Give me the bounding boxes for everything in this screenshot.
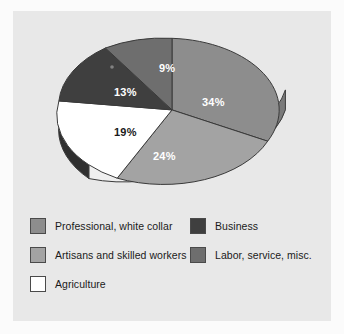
legend-column-left: Professional, white collar Artisans and … <box>30 213 205 300</box>
legend-swatch-agriculture <box>30 276 46 292</box>
legend-column-right: Business Labor, service, misc. <box>190 213 330 271</box>
slice-label-artisans: 24% <box>153 151 176 162</box>
highlight-speck <box>110 65 114 69</box>
slice-label-business: 13% <box>114 87 137 98</box>
legend-label-agriculture: Agriculture <box>55 278 106 290</box>
legend-item-business: Business <box>190 213 330 239</box>
slice-label-agriculture: 19% <box>114 127 137 138</box>
legend-item-professional: Professional, white collar <box>30 213 205 239</box>
pie-chart-svg <box>13 11 331 211</box>
figure-canvas: 34% 24% 19% 13% 9% Professional, white c… <box>0 0 344 334</box>
legend-swatch-artisans <box>30 247 46 263</box>
legend-swatch-professional <box>30 218 46 234</box>
legend-label-labor: Labor, service, misc. <box>215 249 312 261</box>
chart-panel: 34% 24% 19% 13% 9% Professional, white c… <box>13 11 331 321</box>
legend-item-agriculture: Agriculture <box>30 271 205 297</box>
legend-swatch-labor <box>190 247 206 263</box>
pie-chart: 34% 24% 19% 13% 9% <box>13 11 331 211</box>
legend-label-artisans: Artisans and skilled workers <box>55 249 187 261</box>
slice-label-labor: 9% <box>159 63 175 74</box>
chart-legend: Professional, white collar Artisans and … <box>13 213 331 313</box>
legend-item-labor: Labor, service, misc. <box>190 242 330 268</box>
legend-swatch-business <box>190 218 206 234</box>
legend-item-artisans: Artisans and skilled workers <box>30 242 205 268</box>
legend-label-business: Business <box>215 220 258 232</box>
legend-label-professional: Professional, white collar <box>55 220 172 232</box>
slice-label-professional: 34% <box>202 97 225 108</box>
